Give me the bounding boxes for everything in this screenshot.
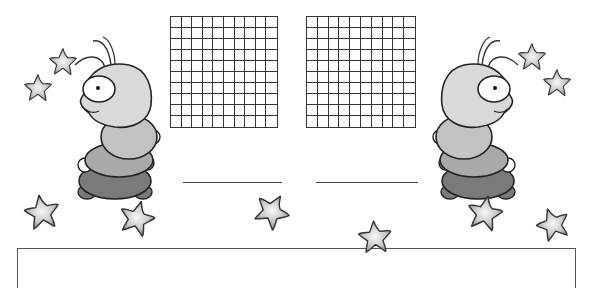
star-icon — [532, 203, 573, 244]
star-icon — [50, 49, 77, 75]
star-icon — [519, 44, 546, 70]
star-icon — [358, 220, 393, 254]
caterpillar-left — [75, 37, 160, 199]
star-icon — [25, 75, 52, 101]
caterpillar-right — [433, 37, 518, 199]
star-icon — [116, 197, 158, 238]
star-icon — [22, 192, 61, 231]
star-icon — [544, 70, 571, 96]
star-icon — [249, 188, 295, 234]
